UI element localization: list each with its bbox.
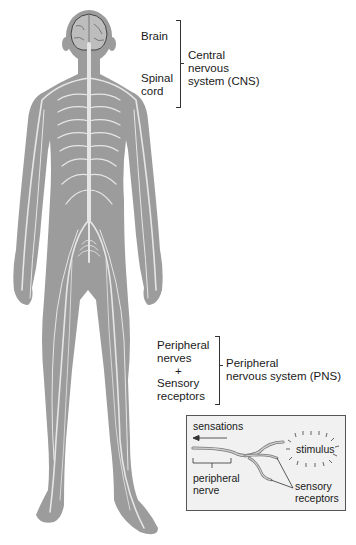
label-sensory: Sensory: [157, 377, 199, 390]
cns-bracket-tick: [180, 63, 184, 64]
cns-bracket: [176, 20, 181, 108]
label-peripheral-system: Peripheral: [226, 357, 278, 370]
label-peripheral-nerve-2: nerve: [193, 484, 219, 496]
label-sensory-receptors-2: receptors: [295, 492, 339, 504]
label-system-cns: system (CNS): [188, 75, 260, 88]
label-peripheral: Peripheral: [157, 339, 209, 352]
pns-bracket-tick: [219, 365, 223, 366]
label-sensory-receptors-1: sensory: [295, 480, 332, 492]
label-stimulus: stimulus: [296, 443, 335, 455]
label-receptors: receptors: [157, 390, 205, 403]
receptor-leader-lines: [271, 458, 293, 488]
label-nerves: nerves: [157, 352, 192, 365]
label-peripheral-nerve-1: peripheral: [193, 472, 240, 484]
sensory-inset-box: sensations: [186, 415, 346, 511]
label-spinal: Spinal: [141, 72, 173, 85]
label-central: Central: [188, 49, 225, 62]
nerve-bracket: [193, 458, 231, 468]
left-arrow-icon: [193, 436, 227, 441]
label-brain: Brain: [141, 30, 168, 43]
label-cord: cord: [141, 85, 163, 98]
label-nervous: nervous: [188, 62, 229, 75]
pns-bracket: [215, 336, 220, 405]
label-nervous-system-pns: nervous system (PNS): [226, 370, 341, 383]
